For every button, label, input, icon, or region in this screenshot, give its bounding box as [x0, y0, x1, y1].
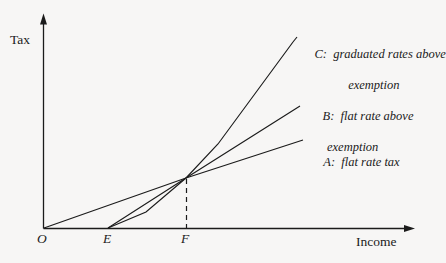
- x-axis: [44, 225, 416, 232]
- leader-line-c: [293, 37, 297, 42]
- x-axis-label: Income: [356, 234, 396, 250]
- curve-b-flat-rate-above-exemption: [108, 106, 300, 228]
- curve-label-c-line1: C: graduated rates above: [315, 47, 446, 61]
- curve-label-a-line1: A: flat rate tax: [323, 155, 399, 169]
- y-axis-label: Tax: [10, 32, 30, 48]
- curve-label-a: A: flat rate tax: [311, 140, 400, 186]
- tick-label-f: F: [181, 231, 189, 247]
- curve-label-c-line2: exemption: [302, 78, 446, 93]
- curve-a-flat-rate-tax: [44, 140, 303, 228]
- tick-label-e: E: [103, 231, 111, 247]
- curve-c-graduated-rates-above-exemption: [108, 42, 293, 228]
- curve-label-b-line1: B: flat rate above: [323, 109, 414, 123]
- y-axis: [40, 14, 47, 229]
- origin-label-o: O: [37, 231, 47, 247]
